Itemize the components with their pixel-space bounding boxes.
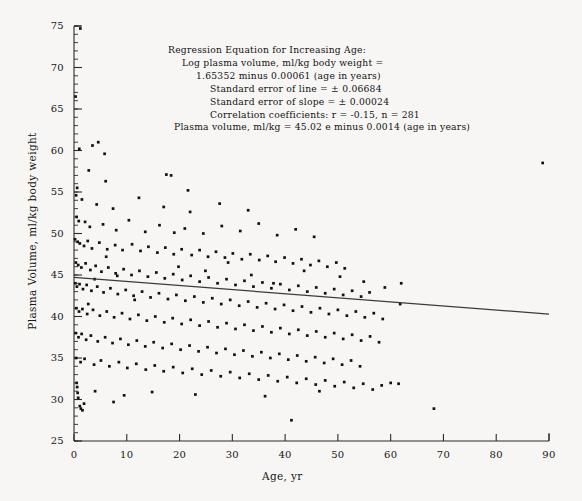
scatter-point — [188, 344, 191, 347]
scatter-point — [242, 349, 245, 352]
scatter-point — [191, 367, 194, 370]
y-tick-label: 65 — [38, 103, 64, 114]
scatter-point — [79, 27, 82, 30]
scatter-point — [198, 280, 201, 283]
x-tick-label: 10 — [113, 449, 141, 460]
scatter-point — [118, 361, 121, 364]
scatter-point — [216, 282, 219, 285]
scatter-point — [80, 333, 83, 336]
scatter-point — [86, 240, 89, 243]
scatter-point — [343, 381, 346, 384]
scatter-point — [279, 327, 282, 330]
scatter-point — [161, 347, 164, 350]
scatter-point — [389, 382, 392, 385]
scatter-point — [250, 274, 253, 277]
scatter-point — [163, 321, 166, 324]
scatter-point — [328, 313, 331, 316]
scatter-point — [75, 261, 78, 264]
scatter-point — [278, 353, 281, 356]
scatter-point — [78, 310, 81, 313]
scatter-point — [91, 144, 94, 147]
scatter-point — [270, 331, 273, 334]
scatter-point — [103, 152, 106, 155]
scatter-point — [247, 209, 250, 212]
scatter-point — [84, 221, 87, 224]
y-tick-label: 35 — [38, 352, 64, 363]
scatter-point — [301, 305, 304, 308]
scatter-point — [352, 387, 355, 390]
scatter-point — [94, 390, 97, 393]
scatter-point — [91, 247, 94, 250]
scatter-point — [102, 291, 105, 294]
scatter-point — [78, 242, 81, 245]
x-tick-label: 50 — [324, 449, 352, 460]
scatter-point — [541, 162, 544, 165]
scatter-point — [87, 169, 90, 172]
scatter-point — [74, 238, 77, 241]
scatter-point — [102, 223, 105, 226]
scatter-point — [292, 262, 295, 265]
annotation-line-1: Regression Equation for Increasing Age: — [168, 44, 470, 57]
scatter-point — [306, 334, 309, 337]
scatter-point — [162, 206, 165, 209]
scatter-point — [75, 307, 78, 310]
scatter-point — [80, 266, 83, 269]
scatter-point — [207, 255, 210, 258]
scatter-point — [84, 262, 87, 265]
scatter-point — [258, 259, 261, 262]
scatter-point — [309, 264, 312, 267]
regression-line — [74, 277, 549, 314]
scatter-point — [156, 251, 159, 254]
scatter-point — [177, 265, 180, 268]
scatter-point — [288, 289, 291, 292]
scatter-point — [341, 363, 344, 366]
scatter-point — [85, 284, 88, 287]
scatter-point — [288, 333, 291, 336]
scatter-point — [400, 282, 403, 285]
annotation-line-2: Log plasma volume, ml/kg body weight = — [168, 57, 470, 70]
scatter-point — [81, 308, 84, 311]
scatter-point — [297, 284, 300, 287]
scatter-point — [276, 234, 279, 237]
scatter-point — [343, 267, 346, 270]
scatter-point — [303, 270, 306, 273]
scatter-point — [172, 253, 175, 256]
regression-annotation-block: Regression Equation for Increasing Age: … — [168, 44, 470, 134]
scatter-point — [215, 352, 218, 355]
scatter-point — [172, 273, 175, 276]
scatter-point — [315, 330, 318, 333]
scatter-point — [82, 288, 85, 291]
x-axis-major-ticks — [74, 434, 549, 441]
scatter-point — [198, 324, 201, 327]
scatter-point — [173, 231, 176, 234]
scatter-point — [77, 396, 80, 399]
scatter-point — [141, 290, 144, 293]
scatter-point — [155, 271, 158, 274]
scatter-point — [123, 394, 126, 397]
scatter-point — [181, 372, 184, 375]
scatter-point — [77, 220, 80, 223]
scatter-point — [266, 255, 269, 258]
scatter-point — [144, 345, 147, 348]
scatter-point — [100, 270, 103, 273]
scatter-point — [272, 282, 275, 285]
scatter-point — [180, 248, 183, 251]
scatter-point — [83, 357, 86, 360]
scatter-point — [314, 356, 317, 359]
x-axis-title: Age, yr — [262, 470, 303, 482]
scatter-point — [189, 318, 192, 321]
scatter-point — [240, 258, 243, 261]
scatter-point — [76, 392, 79, 395]
scatter-point — [96, 340, 99, 343]
scatter-point — [257, 378, 260, 381]
scatter-point — [129, 318, 132, 321]
y-tick-label: 30 — [38, 394, 64, 405]
scatter-point — [130, 274, 133, 277]
scatter-point — [261, 325, 264, 328]
scatter-point — [128, 219, 131, 222]
x-tick-label: 20 — [166, 449, 194, 460]
chart-figure: Regression Equation for Increasing Age: … — [0, 0, 582, 501]
scatter-point — [145, 319, 148, 322]
scatter-point — [122, 268, 125, 271]
scatter-point — [218, 202, 221, 205]
